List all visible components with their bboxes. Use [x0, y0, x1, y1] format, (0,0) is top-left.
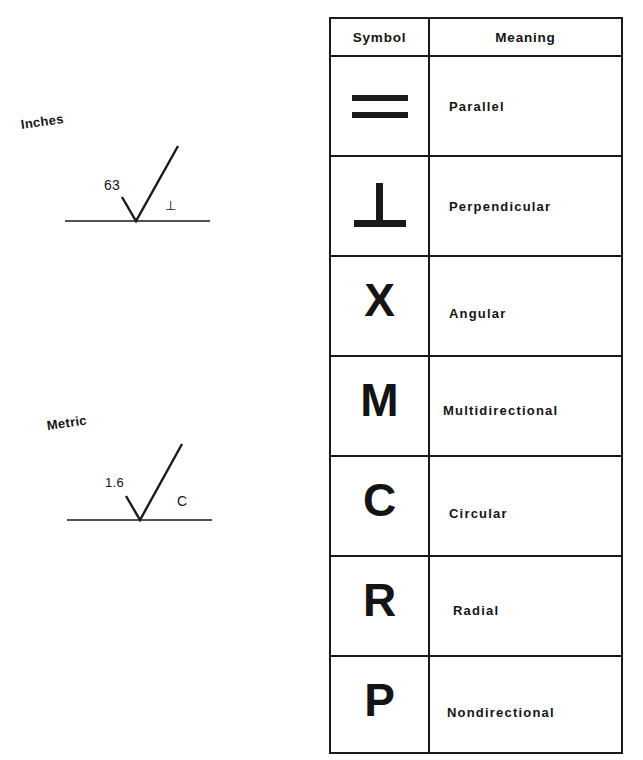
- table-row: Perpendicular: [331, 157, 621, 257]
- table-row: C Circular: [331, 457, 621, 557]
- header-meaning: Meaning: [495, 30, 555, 45]
- radial-icon: R: [363, 577, 396, 623]
- table-row: R Radial: [331, 557, 621, 657]
- roughness-value: 1.6: [105, 475, 124, 490]
- table-row: P Nondirectional: [331, 657, 621, 754]
- meaning-text: Nondirectional: [447, 705, 555, 720]
- nondirectional-icon: P: [364, 677, 395, 723]
- meaning-text: Angular: [449, 306, 507, 321]
- header-symbol: Symbol: [353, 30, 407, 45]
- surface-finish-symbol-icon: [0, 0, 250, 540]
- table-row: M Multidirectional: [331, 357, 621, 457]
- circular-icon: C: [363, 477, 396, 523]
- meaning-text: Radial: [453, 603, 499, 618]
- angular-icon: X: [364, 277, 395, 323]
- table-row: Parallel: [331, 57, 621, 157]
- lay-symbol: C: [177, 493, 187, 509]
- lay-symbols-table: Symbol Meaning Parallel Perpendicular X …: [329, 17, 623, 754]
- table-header: Symbol Meaning: [331, 19, 621, 57]
- meaning-text: Circular: [449, 506, 508, 521]
- meaning-text: Parallel: [449, 99, 505, 114]
- perpendicular-icon: [352, 181, 408, 231]
- multidirectional-icon: M: [360, 377, 398, 423]
- meaning-text: Multidirectional: [443, 403, 558, 418]
- table-row: X Angular: [331, 257, 621, 357]
- parallel-icon: [350, 91, 410, 121]
- meaning-text: Perpendicular: [449, 199, 551, 214]
